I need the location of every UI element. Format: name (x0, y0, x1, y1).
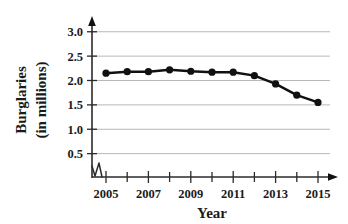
x-tick-label: 2005 (94, 187, 119, 201)
x-tick-label: 2013 (263, 187, 288, 201)
data-point (251, 72, 258, 79)
y-tick-label: 2.0 (67, 74, 83, 88)
y-tick-label: 1.5 (67, 98, 83, 112)
chart-figure: 3.02.52.01.51.00.5 200520072009201120132… (0, 0, 348, 224)
data-point (272, 80, 279, 87)
data-point (208, 69, 215, 76)
data-point (230, 69, 237, 76)
y-tick-label-group: 3.02.52.01.51.00.5 (67, 25, 83, 161)
y-tick-label: 3.0 (67, 25, 83, 39)
y-axis-title-line2: (in millions) (33, 61, 50, 138)
y-tick-label: 2.5 (67, 50, 83, 64)
x-tick-label: 2015 (306, 187, 331, 201)
x-axis-arrow (328, 173, 338, 181)
data-point (187, 68, 194, 75)
x-tick-label: 2011 (221, 187, 245, 201)
y-axis-title-line1: Burglaries (13, 66, 29, 134)
x-tick-label: 2007 (136, 187, 161, 201)
data-point (293, 92, 300, 99)
y-tick-label: 1.0 (67, 123, 83, 137)
data-point (102, 70, 109, 77)
y-axis-arrow (88, 16, 96, 26)
data-point (145, 68, 152, 75)
line-chart: 3.02.52.01.51.00.5 200520072009201120132… (0, 0, 348, 224)
data-point (166, 66, 173, 73)
x-tick-label: 2009 (178, 187, 203, 201)
data-point (124, 68, 131, 75)
x-axis-title: Year (197, 205, 227, 221)
data-point (314, 99, 321, 106)
axis-break-icon (92, 163, 102, 177)
y-tick-label: 0.5 (67, 147, 83, 161)
x-tick-label-group: 200520072009201120132015 (94, 187, 331, 201)
